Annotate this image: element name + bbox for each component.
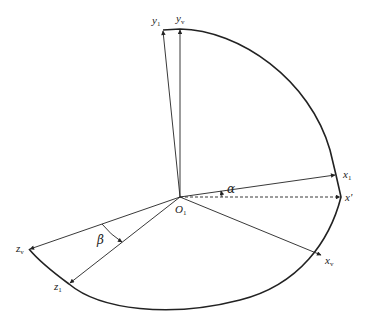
axis-y1 (163, 31, 180, 197)
axis-z1 (70, 197, 180, 283)
label-xv: xv (324, 254, 334, 268)
angle-alpha-arc (221, 191, 222, 197)
axis-xv (180, 197, 321, 255)
label-origin: O1 (175, 203, 187, 217)
label-y1: y1 (151, 14, 161, 28)
label-zv: zv (15, 242, 24, 256)
label-z1: z1 (53, 280, 62, 294)
label-x1: x1 (342, 168, 352, 182)
angle-beta-arc (102, 224, 122, 242)
label-xprime: x' (344, 191, 353, 203)
sphere-boundary-arc (29, 29, 341, 310)
label-beta: β (96, 233, 104, 247)
coordinate-frame-diagram: y1 yv x1 x' xv zv z1 O1 α β (0, 0, 367, 320)
label-alpha: α (227, 182, 235, 196)
axis-x1 (180, 175, 335, 197)
axes (30, 30, 340, 283)
axis-zv (30, 197, 180, 249)
label-yv: yv (175, 12, 185, 26)
